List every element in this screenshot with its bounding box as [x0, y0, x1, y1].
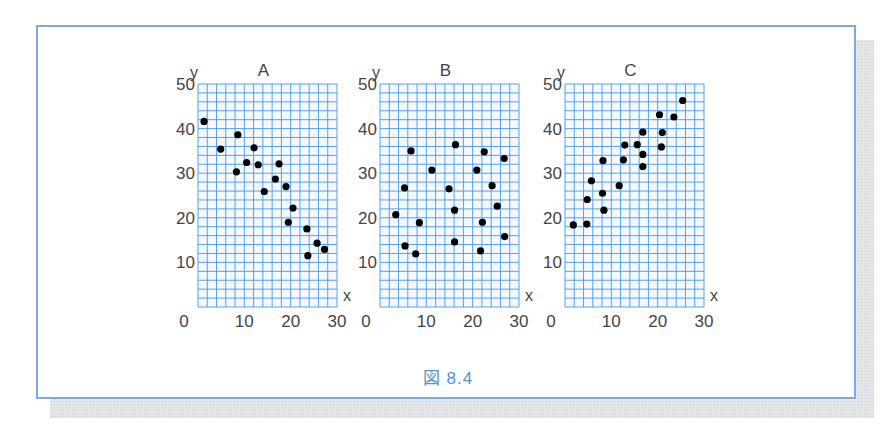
data-point [481, 148, 488, 155]
data-point [407, 147, 414, 154]
svg-text:x: x [710, 287, 718, 304]
data-point [658, 143, 665, 150]
data-point [634, 141, 641, 148]
svg-text:30: 30 [695, 312, 714, 331]
svg-text:20: 20 [281, 312, 300, 331]
svg-text:40: 40 [543, 120, 562, 139]
svg-text:20: 20 [543, 209, 562, 228]
svg-text:10: 10 [543, 253, 562, 272]
data-point [670, 113, 677, 120]
data-point [583, 220, 590, 227]
svg-text:40: 40 [358, 120, 377, 139]
svg-text:30: 30 [510, 312, 529, 331]
svg-text:50: 50 [358, 75, 377, 94]
svg-text:x: x [343, 287, 351, 304]
data-point [620, 156, 627, 163]
data-point [489, 182, 496, 189]
svg-text:10: 10 [176, 253, 195, 272]
svg-text:x: x [525, 287, 533, 304]
data-point [639, 151, 646, 158]
svg-text:20: 20 [648, 312, 667, 331]
data-point [412, 250, 419, 257]
data-point [494, 203, 501, 210]
data-point [234, 131, 241, 138]
data-point [313, 240, 320, 247]
data-point [243, 159, 250, 166]
scatter-plot-a: Ayx10203040500102030 [176, 61, 351, 331]
data-point [304, 252, 311, 259]
data-point [217, 146, 224, 153]
data-point [588, 177, 595, 184]
data-point [616, 182, 623, 189]
svg-text:10: 10 [417, 312, 436, 331]
data-point [289, 204, 296, 211]
figure-caption: 図 8.4 [0, 364, 896, 389]
data-point [303, 225, 310, 232]
data-point [584, 196, 591, 203]
data-point [233, 168, 240, 175]
data-point [275, 160, 282, 167]
data-point [570, 221, 577, 228]
data-point [501, 155, 508, 162]
svg-text:0: 0 [546, 312, 555, 331]
data-point [401, 242, 408, 249]
data-point [621, 142, 628, 149]
data-point [452, 141, 459, 148]
data-point [282, 183, 289, 190]
data-point [261, 188, 268, 195]
svg-text:B: B [440, 61, 451, 80]
data-point [679, 97, 686, 104]
svg-text:50: 50 [176, 75, 195, 94]
data-point [659, 129, 666, 136]
svg-text:20: 20 [463, 312, 482, 331]
data-point [416, 219, 423, 226]
svg-text:30: 30 [358, 164, 377, 183]
svg-text:10: 10 [235, 312, 254, 331]
data-point [600, 207, 607, 214]
svg-text:0: 0 [179, 312, 188, 331]
data-point [639, 129, 646, 136]
svg-text:0: 0 [361, 312, 370, 331]
data-point [451, 207, 458, 214]
data-point [656, 111, 663, 118]
data-point [321, 246, 328, 253]
data-point [401, 184, 408, 191]
svg-text:C: C [624, 61, 636, 80]
scatter-plot-b: Byx10203040500102030 [358, 61, 533, 331]
svg-text:30: 30 [176, 164, 195, 183]
data-point [250, 144, 257, 151]
data-point [392, 211, 399, 218]
svg-text:30: 30 [328, 312, 347, 331]
data-point [599, 190, 606, 197]
svg-text:20: 20 [358, 209, 377, 228]
svg-text:A: A [258, 61, 270, 80]
data-point [479, 219, 486, 226]
data-point [428, 166, 435, 173]
scatter-plot-c: Cyx10203040500102030 [543, 61, 718, 331]
svg-text:10: 10 [358, 253, 377, 272]
data-point [255, 161, 262, 168]
svg-text:10: 10 [602, 312, 621, 331]
data-point [200, 118, 207, 125]
svg-text:40: 40 [176, 120, 195, 139]
data-point [451, 238, 458, 245]
data-point [445, 185, 452, 192]
data-point [599, 157, 606, 164]
data-point [639, 163, 646, 170]
svg-text:30: 30 [543, 164, 562, 183]
data-point [473, 166, 480, 173]
svg-text:20: 20 [176, 209, 195, 228]
data-point [477, 247, 484, 254]
data-point [285, 219, 292, 226]
svg-text:50: 50 [543, 75, 562, 94]
data-point [272, 175, 279, 182]
data-point [501, 233, 508, 240]
